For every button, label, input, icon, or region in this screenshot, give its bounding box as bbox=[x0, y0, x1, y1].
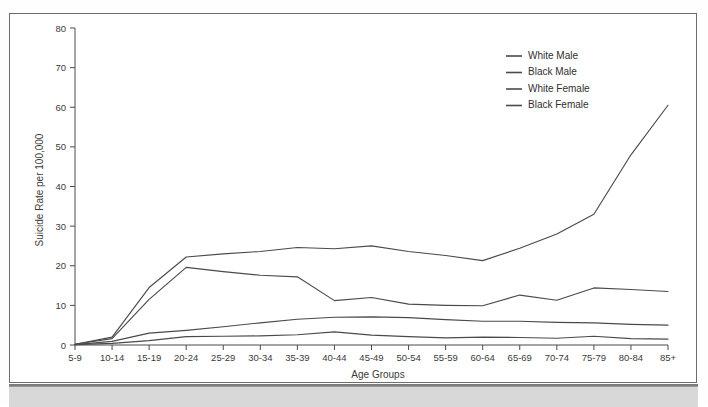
series-line-white-male bbox=[75, 105, 668, 344]
y-tick-label: 10 bbox=[55, 300, 66, 311]
y-tick-label: 30 bbox=[55, 221, 66, 232]
x-tick-label: 55-59 bbox=[433, 352, 457, 363]
x-tick-label: 45-49 bbox=[359, 352, 383, 363]
y-tick-label: 40 bbox=[55, 181, 66, 192]
legend-label-black-male: Black Male bbox=[528, 66, 577, 77]
y-tick-label: 20 bbox=[55, 260, 66, 271]
x-tick-label: 65-69 bbox=[508, 352, 532, 363]
x-tick-label: 75-79 bbox=[582, 352, 606, 363]
y-tick-label: 50 bbox=[55, 141, 66, 152]
x-tick-label: 40-44 bbox=[322, 352, 346, 363]
x-tick-label: 60-64 bbox=[471, 352, 495, 363]
y-axis-title: Suicide Rate per 100,000 bbox=[34, 133, 45, 246]
x-axis-ticks: 5-910-1415-1920-2425-2930-3435-3940-4445… bbox=[68, 345, 676, 363]
x-tick-label: 35-39 bbox=[285, 352, 309, 363]
y-axis-ticks: 01020304050607080 bbox=[55, 23, 75, 351]
x-tick-label: 25-29 bbox=[211, 352, 235, 363]
x-axis-title: Age Groups bbox=[351, 369, 404, 380]
data-series-group bbox=[75, 105, 668, 344]
x-tick-label: 50-54 bbox=[396, 352, 420, 363]
x-tick-label: 5-9 bbox=[68, 352, 82, 363]
legend-label-black-female: Black Female bbox=[528, 99, 589, 110]
chart-legend: White MaleBlack MaleWhite FemaleBlack Fe… bbox=[506, 50, 590, 111]
x-tick-label: 70-74 bbox=[545, 352, 569, 363]
y-tick-label: 0 bbox=[61, 340, 66, 351]
x-tick-label: 30-34 bbox=[248, 352, 272, 363]
x-tick-label: 15-19 bbox=[137, 352, 161, 363]
series-line-white-female bbox=[75, 317, 668, 345]
x-tick-label: 10-14 bbox=[100, 352, 124, 363]
x-tick-label: 20-24 bbox=[174, 352, 198, 363]
x-tick-label: 80-84 bbox=[619, 352, 643, 363]
legend-label-white-female: White Female bbox=[528, 83, 590, 94]
x-tick-label: 85+ bbox=[660, 352, 677, 363]
y-tick-label: 60 bbox=[55, 102, 66, 113]
y-tick-label: 70 bbox=[55, 62, 66, 73]
legend-label-white-male: White Male bbox=[528, 50, 578, 61]
series-line-black-female bbox=[75, 332, 668, 345]
series-line-black-male bbox=[75, 267, 668, 344]
y-tick-label: 80 bbox=[55, 23, 66, 34]
